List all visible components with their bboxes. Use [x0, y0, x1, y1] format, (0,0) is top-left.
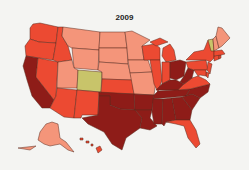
- state-WY[interactable]: [72, 48, 99, 70]
- state-ND[interactable]: [99, 32, 127, 48]
- state-WI[interactable]: [142, 44, 160, 60]
- state-ME[interactable]: [216, 27, 230, 48]
- state-AR[interactable]: [134, 94, 154, 110]
- state-WA[interactable]: [30, 23, 58, 43]
- us-choropleth-map: [0, 0, 249, 170]
- state-NJ[interactable]: [207, 62, 212, 74]
- state-RI[interactable]: [219, 55, 221, 59]
- state-NE[interactable]: [98, 62, 132, 80]
- state-NM[interactable]: [74, 90, 99, 118]
- state-MO[interactable]: [130, 72, 156, 95]
- state-AK[interactable]: [18, 122, 74, 152]
- state-MS[interactable]: [152, 99, 163, 124]
- state-MA[interactable]: [214, 50, 225, 56]
- state-SD[interactable]: [99, 48, 128, 64]
- state-HI[interactable]: [80, 138, 102, 153]
- state-FL[interactable]: [166, 120, 200, 148]
- state-CO[interactable]: [77, 70, 102, 92]
- state-KS[interactable]: [101, 79, 134, 94]
- state-IA[interactable]: [128, 60, 152, 73]
- state-PA[interactable]: [186, 60, 208, 70]
- state-MD[interactable]: [194, 70, 206, 76]
- state-DE[interactable]: [206, 72, 209, 78]
